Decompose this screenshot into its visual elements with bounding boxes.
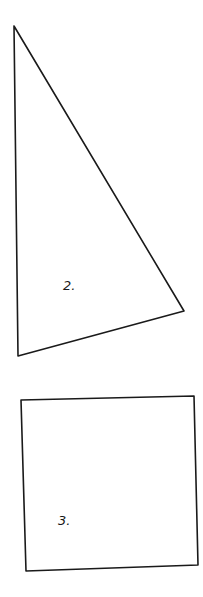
label-shape-2: 2. bbox=[63, 278, 75, 293]
label-shape-3: 3. bbox=[58, 513, 70, 528]
diagram-canvas: 2. 3. bbox=[0, 0, 203, 597]
triangle-shape-2 bbox=[14, 26, 184, 356]
quadrilateral-shape-3 bbox=[21, 396, 198, 571]
